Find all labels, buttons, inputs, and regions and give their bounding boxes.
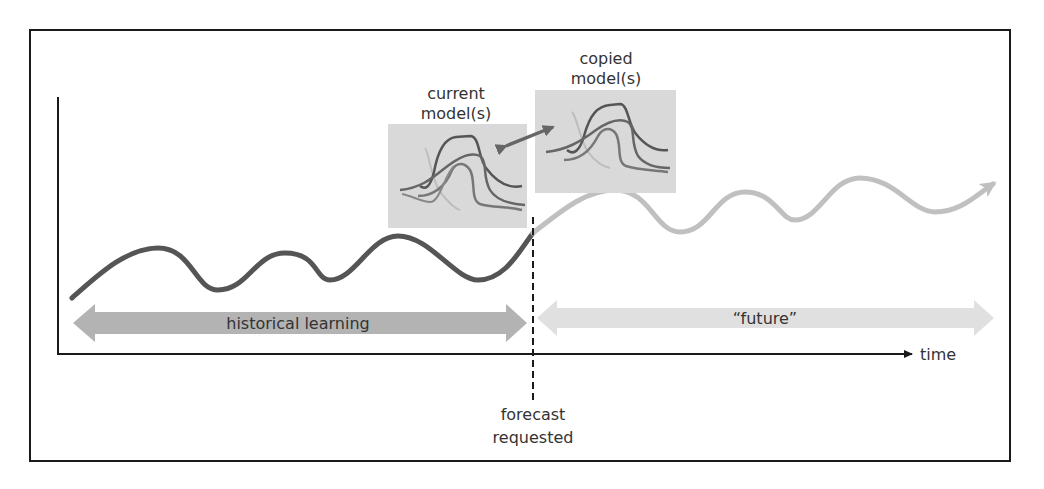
forecast-label-line2: requested [493, 428, 574, 447]
time-axis-label: time [920, 345, 956, 364]
diagram-canvas: time historical learning “future” foreca… [0, 0, 1044, 489]
historical-learning-label: historical learning [226, 314, 369, 333]
copied-models-label-line2: model(s) [571, 69, 642, 88]
future-arrow: “future” [537, 300, 994, 336]
current-models-node [388, 124, 527, 228]
current-models-label-line2: model(s) [421, 104, 492, 123]
historical-learning-arrow: historical learning [73, 304, 527, 342]
historical-curve [72, 233, 533, 298]
copied-models-label-line1: copied [579, 49, 632, 68]
outer-frame [30, 30, 1010, 461]
current-models-label-line1: current [427, 84, 485, 103]
copied-models-node [535, 90, 676, 193]
future-label: “future” [733, 309, 797, 328]
forecast-label-line1: forecast [501, 405, 566, 424]
